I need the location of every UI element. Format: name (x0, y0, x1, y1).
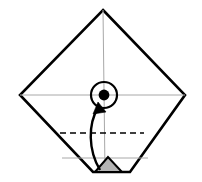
origami-diagram-svg (0, 0, 202, 182)
origami-diagram-container (0, 0, 202, 182)
center-point-dot-icon (99, 90, 110, 101)
